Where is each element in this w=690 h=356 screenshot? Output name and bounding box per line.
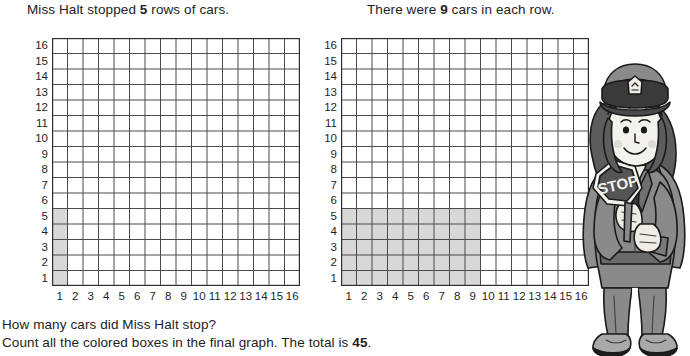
right-graph-cells[interactable]: [341, 38, 589, 286]
y-tick-label: 15: [317, 54, 337, 69]
footer-total-line: Count all the colored boxes in the final…: [2, 335, 371, 350]
y-tick-label: 6: [28, 193, 48, 208]
prompt-right-text-after: cars in each row.: [448, 2, 555, 17]
prompt-left-text-before: Miss Halt stopped: [27, 2, 140, 17]
guard-leg-left: [604, 288, 632, 336]
y-tick-label: 6: [317, 193, 337, 208]
footer-question: How many cars did Miss Halt stop?: [2, 317, 216, 332]
y-tick-label: 8: [28, 162, 48, 177]
stop-sign-pole: [624, 202, 632, 242]
y-tick-label: 10: [28, 131, 48, 146]
y-tick-label: 5: [317, 209, 337, 224]
guard-trouser-gap: [632, 288, 638, 322]
right-graph-grid[interactable]: [341, 38, 589, 286]
y-tick-label: 14: [317, 69, 337, 84]
prompt-left-graph: Miss Halt stopped 5 rows of cars.: [27, 2, 229, 17]
y-tick-label: 3: [28, 240, 48, 255]
prompt-right-graph: There were 9 cars in each row.: [367, 2, 555, 17]
shaded-region: [52, 209, 68, 287]
left-graph-x-axis: 12345678910111213141516: [52, 288, 300, 304]
y-tick-label: 4: [28, 224, 48, 239]
y-tick-label: 12: [28, 100, 48, 115]
y-tick-label: 5: [28, 209, 48, 224]
left-graph-y-axis: 12345678910111213141516: [28, 38, 48, 286]
right-graph-x-axis: 12345678910111213141516: [341, 288, 589, 304]
y-tick-label: 16: [28, 38, 48, 53]
y-tick-label: 2: [317, 255, 337, 270]
crossing-guard-illustration: STOP: [580, 52, 690, 356]
shaded-region: [341, 209, 481, 287]
footer-total-after: .: [368, 335, 372, 350]
y-tick-label: 9: [28, 147, 48, 162]
footer-total-before: Count all the colored boxes in the final…: [2, 335, 352, 350]
y-tick-label: 14: [28, 69, 48, 84]
y-tick-label: 13: [317, 85, 337, 100]
prompt-right-text-before: There were: [367, 2, 440, 17]
y-tick-label: 2: [28, 255, 48, 270]
guard-eye-left: [623, 126, 629, 133]
guard-cheek-left: [614, 140, 622, 148]
prompt-right-number: 9: [440, 2, 448, 17]
right-graph-y-axis: 12345678910111213141516: [317, 38, 337, 286]
left-graph-cells[interactable]: [52, 38, 300, 286]
y-tick-label: 7: [317, 178, 337, 193]
y-tick-label: 1: [317, 271, 337, 286]
guard-cheek-right: [648, 140, 656, 148]
left-graph-grid[interactable]: [52, 38, 300, 286]
y-tick-label: 13: [28, 85, 48, 100]
guard-eye-right: [641, 126, 647, 133]
footer-total-number: 45: [352, 335, 367, 350]
y-tick-label: 16: [317, 38, 337, 53]
y-tick-label: 11: [317, 116, 337, 131]
y-tick-label: 1: [28, 271, 48, 286]
y-tick-label: 8: [317, 162, 337, 177]
guard-hand-right: [634, 224, 661, 252]
y-tick-label: 9: [317, 147, 337, 162]
x-tick-label: 16: [283, 288, 301, 304]
y-tick-label: 3: [317, 240, 337, 255]
y-tick-label: 7: [28, 178, 48, 193]
y-tick-label: 4: [317, 224, 337, 239]
prompt-left-text-after: rows of cars.: [147, 2, 229, 17]
y-tick-label: 11: [28, 116, 48, 131]
y-tick-label: 10: [317, 131, 337, 146]
y-tick-label: 15: [28, 54, 48, 69]
y-tick-label: 12: [317, 100, 337, 115]
